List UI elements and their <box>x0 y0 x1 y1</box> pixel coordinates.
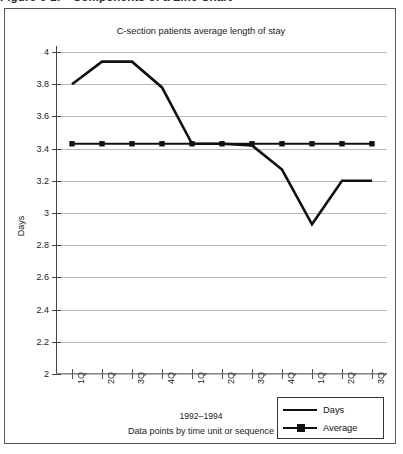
series-marker-average <box>219 141 224 146</box>
series-marker-average <box>279 141 284 146</box>
figure-number: Figure 6-2. <box>0 0 60 3</box>
y-tick-label: 3 <box>9 208 49 218</box>
figure-caption-text: Components of a Line Chart <box>73 0 232 3</box>
series-marker-average <box>159 141 164 146</box>
series-marker-average <box>249 141 254 146</box>
legend-item-days: Days <box>283 401 344 418</box>
y-axis-label: Days <box>16 216 26 237</box>
series-marker-average <box>369 141 374 146</box>
legend-label-days: Days <box>323 405 344 415</box>
legend-item-average: Average <box>283 419 357 436</box>
series-marker-average <box>129 141 134 146</box>
y-tick-label: 2 <box>9 369 49 379</box>
legend-key-line-icon <box>283 404 317 416</box>
y-tick-label: 3.2 <box>9 176 49 186</box>
y-tick-label: 2.2 <box>9 337 49 347</box>
figure-container: Figure 6-2. Components of a Line Chart C… <box>0 0 403 454</box>
series-marker-average <box>69 141 74 146</box>
y-tick-label: 3.4 <box>9 144 49 154</box>
series-marker-average <box>339 141 344 146</box>
series-layer <box>57 52 387 374</box>
y-tick-label: 2.8 <box>9 240 49 250</box>
y-tick-label: 4 <box>9 47 49 57</box>
chart-frame: C-section patients average length of sta… <box>4 8 396 444</box>
y-tick-label: 3.6 <box>9 111 49 121</box>
series-marker-average <box>99 141 104 146</box>
plot-area: 22.22.42.62.833.23.43.63.84 1Q2Q3Q4Q1Q2Q… <box>57 52 387 374</box>
series-marker-average <box>189 141 194 146</box>
y-tick-label: 3.8 <box>9 79 49 89</box>
chart-title: C-section patients average length of sta… <box>5 26 397 36</box>
series-marker-average <box>309 141 314 146</box>
y-tick-label: 2.6 <box>9 272 49 282</box>
figure-caption: Figure 6-2. Components of a Line Chart <box>0 0 403 7</box>
legend-key-line-square-icon <box>283 422 317 434</box>
chart-legend: Days Average <box>277 397 384 439</box>
y-tick-label: 2.4 <box>9 305 49 315</box>
y-tick-mark <box>52 374 61 375</box>
legend-label-average: Average <box>323 423 357 433</box>
